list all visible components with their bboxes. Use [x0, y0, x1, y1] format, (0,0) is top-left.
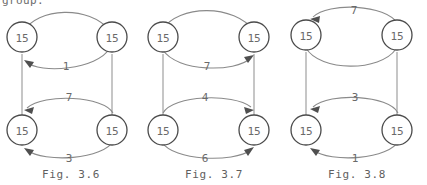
edge-label-top-outer: 7: [351, 4, 358, 17]
edge-label-bottom-lower: 6: [202, 152, 209, 165]
figure-3-7-caption: Fig. 3.7: [143, 168, 285, 181]
arrowhead-bottom-lower-arc: [244, 147, 254, 156]
node-top-right: 15: [382, 20, 412, 50]
node-top-left: 15: [291, 20, 321, 50]
edge-top-outer-arc: [162, 11, 254, 31]
node-bottom-right-label: 15: [390, 125, 403, 138]
node-top-left-label: 15: [156, 32, 169, 45]
arrowhead-bottom-lower-arc: [310, 148, 320, 156]
figure-page: group. 1 7 3 15: [0, 0, 427, 185]
edge-label-bottom-lower: 1: [352, 152, 359, 165]
arrowhead-bottom-lower-arc: [24, 148, 34, 156]
node-bottom-left: 15: [291, 115, 321, 145]
edge-label-top-inner: 1: [63, 60, 70, 73]
node-top-left: 15: [7, 22, 37, 52]
node-bottom-left: 15: [7, 115, 37, 145]
figure-3-8: 7 3 1 15 15: [286, 0, 427, 185]
edge-label-bottom-lower: 3: [66, 152, 73, 165]
edge-label-bottom-upper: 7: [66, 91, 73, 104]
node-bottom-right: 15: [97, 115, 127, 145]
edge-label-top-inner: 7: [204, 60, 211, 73]
edge-label-bottom-upper: 3: [352, 91, 359, 104]
node-bottom-right-label: 15: [105, 125, 118, 138]
figure-3-7: 7 4 6 15 15 15: [143, 0, 285, 185]
node-bottom-left-label: 15: [299, 125, 312, 138]
figure-3-8-caption: Fig. 3.8: [286, 168, 427, 181]
arrowhead-top-inner-arc: [24, 60, 34, 68]
node-top-right-label: 15: [247, 32, 260, 45]
node-top-right: 15: [97, 22, 127, 52]
node-bottom-right: 15: [239, 115, 269, 145]
node-bottom-left: 15: [148, 115, 178, 145]
node-top-left-label: 15: [15, 32, 28, 45]
figure-3-6: 1 7 3 15 15 15: [0, 0, 142, 185]
node-bottom-right: 15: [382, 115, 412, 145]
node-top-left-label: 15: [299, 30, 312, 43]
node-bottom-left-label: 15: [156, 125, 169, 138]
node-top-right-label: 15: [390, 30, 403, 43]
arrowhead-bottom-upper-arc: [310, 106, 320, 113]
node-bottom-right-label: 15: [247, 125, 260, 138]
node-top-right-label: 15: [105, 32, 118, 45]
node-bottom-left-label: 15: [15, 125, 28, 138]
edge-top-inner-arc: [306, 48, 396, 66]
edge-label-bottom-upper: 4: [202, 91, 209, 104]
node-top-right: 15: [239, 22, 269, 52]
node-top-left: 15: [148, 22, 178, 52]
arrowhead-bottom-upper-arc: [24, 107, 34, 114]
arrowhead-bottom-upper-arc: [244, 107, 254, 114]
figure-3-6-caption: Fig. 3.6: [0, 168, 142, 181]
